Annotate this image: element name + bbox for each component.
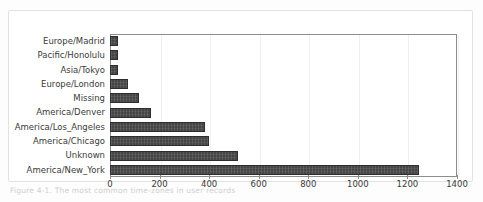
grid-line <box>458 35 459 176</box>
y-axis-labels: Europe/MadridPacific/HonoluluAsia/TokyoE… <box>9 34 108 177</box>
y-axis-tick-label: America/New_York <box>9 163 108 177</box>
bar <box>110 50 118 60</box>
bar-row <box>110 120 457 134</box>
y-axis-tick-label: America/Los_Angeles <box>9 120 108 134</box>
y-axis-tick-label: Unknown <box>9 148 108 162</box>
x-axis-tick-label: 1400 <box>446 179 468 189</box>
figure-container: Europe/MadridPacific/HonoluluAsia/TokyoE… <box>0 0 483 202</box>
bar <box>110 151 238 161</box>
bar-row <box>110 148 457 162</box>
bar-row <box>110 77 457 91</box>
bar-row <box>110 163 457 177</box>
figure-caption: Figure 4-1. The most common time-zones i… <box>10 186 430 195</box>
bar <box>110 65 118 75</box>
bar-row <box>110 34 457 48</box>
bar <box>110 79 128 89</box>
bar-row <box>110 48 457 62</box>
bar-row <box>110 105 457 119</box>
bar <box>110 165 419 175</box>
bar-row <box>110 134 457 148</box>
y-axis-tick-label: America/Denver <box>9 105 108 119</box>
bar <box>110 36 118 46</box>
y-axis-tick-label: Europe/Madrid <box>9 34 108 48</box>
y-axis-tick-label: Pacific/Honolulu <box>9 48 108 62</box>
bar <box>110 122 205 132</box>
y-axis-tick-label: Europe/London <box>9 77 108 91</box>
bar <box>110 93 139 103</box>
y-axis-tick-label: America/Chicago <box>9 134 108 148</box>
bar-row <box>110 91 457 105</box>
figure-frame: Europe/MadridPacific/HonoluluAsia/TokyoE… <box>8 10 473 182</box>
bars-layer <box>110 34 457 177</box>
bar <box>110 108 151 118</box>
y-axis-tick-label: Missing <box>9 91 108 105</box>
bar <box>110 136 209 146</box>
bar-row <box>110 63 457 77</box>
y-axis-tick-label: Asia/Tokyo <box>9 63 108 77</box>
